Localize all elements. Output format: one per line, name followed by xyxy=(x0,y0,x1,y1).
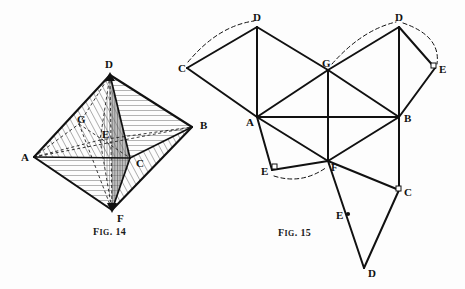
fig14-label-B: B xyxy=(200,119,208,131)
fig15-label-D-topright: D xyxy=(395,11,403,23)
fig15-label-C-left: C xyxy=(178,62,186,74)
fig15-label-D-bottom: D xyxy=(368,267,376,279)
fig15-label-G: G xyxy=(322,57,331,69)
fig14-label-E: E xyxy=(102,128,109,140)
fig15-label-E-bottom: E xyxy=(336,209,343,221)
fig15-vertex-dots xyxy=(346,212,350,216)
fig15-caption: FIG. 15 xyxy=(278,227,311,238)
fig15-label-A: A xyxy=(246,116,254,128)
figure-page: A B C D E F G FIG. 14 xyxy=(0,0,465,289)
fig15-arc-G-D xyxy=(332,22,396,64)
fig15-label-D-topleft: D xyxy=(253,11,261,23)
fig15-label-C-right: C xyxy=(404,186,412,198)
fig15-net-drawing: C D G D E A B F E C E D FIG. 15 xyxy=(178,11,446,279)
fig14-label-F: F xyxy=(117,212,124,224)
fig14-label-A: A xyxy=(21,151,29,163)
fig14-label-G: G xyxy=(77,113,86,125)
fig14-label-D: D xyxy=(105,58,113,70)
fig14-caption: FIG. 14 xyxy=(93,226,126,237)
fig15-label-E-right: E xyxy=(439,63,446,75)
fig15-label-F: F xyxy=(331,161,338,173)
fig15-label-E-left: E xyxy=(261,165,268,177)
fig14-label-C: C xyxy=(136,157,144,169)
fig14-octahedron-drawing: A B C D E F G FIG. 14 xyxy=(0,0,465,289)
fig15-label-B: B xyxy=(404,112,412,124)
fig15-arc-D-E xyxy=(403,23,437,64)
fig15-arc-C-D xyxy=(188,21,254,62)
